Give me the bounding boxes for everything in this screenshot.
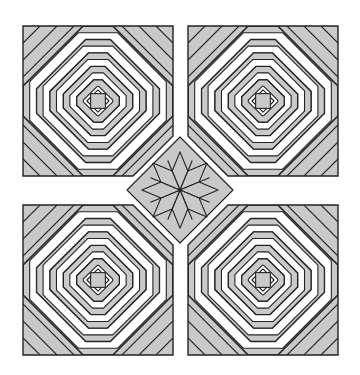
pineapple-top-left xyxy=(23,26,173,176)
pineapple-bottom-left xyxy=(23,205,173,355)
pineapple-top-right xyxy=(188,26,338,176)
quilt-diagram xyxy=(0,0,360,375)
pineapple-bottom-right xyxy=(188,205,338,355)
star-center xyxy=(178,188,182,192)
center-square xyxy=(256,94,271,109)
center-square xyxy=(91,273,106,288)
center-square xyxy=(91,94,106,109)
center-square xyxy=(256,273,271,288)
